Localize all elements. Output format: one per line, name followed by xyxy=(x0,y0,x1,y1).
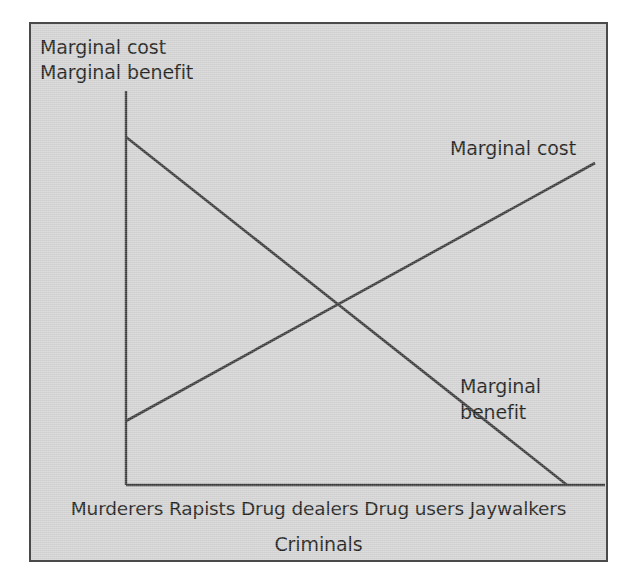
series-label-marginal-benefit: Marginalbenefit xyxy=(460,373,541,425)
series-label-marginal-cost: Marginal cost xyxy=(450,136,576,161)
y-axis-title: Marginal costMarginal benefit xyxy=(40,35,193,85)
x-axis-title: Criminals xyxy=(31,532,606,557)
y-axis-title-line1: Marginal cost xyxy=(40,36,166,58)
chart-canvas xyxy=(31,24,606,560)
series-label-marginal-benefit-line1: Marginal xyxy=(460,375,541,397)
figure-frame: Marginal costMarginal benefit Marginal c… xyxy=(29,22,608,562)
series-label-marginal-benefit-line2: benefit xyxy=(460,401,526,423)
marginal-benefit-line xyxy=(126,137,567,485)
plot-area: Marginal costMarginal benefit Marginal c… xyxy=(31,24,606,560)
x-axis-tick-labels: Murderers Rapists Drug dealers Drug user… xyxy=(31,496,606,521)
y-axis-title-line2: Marginal benefit xyxy=(40,61,193,83)
